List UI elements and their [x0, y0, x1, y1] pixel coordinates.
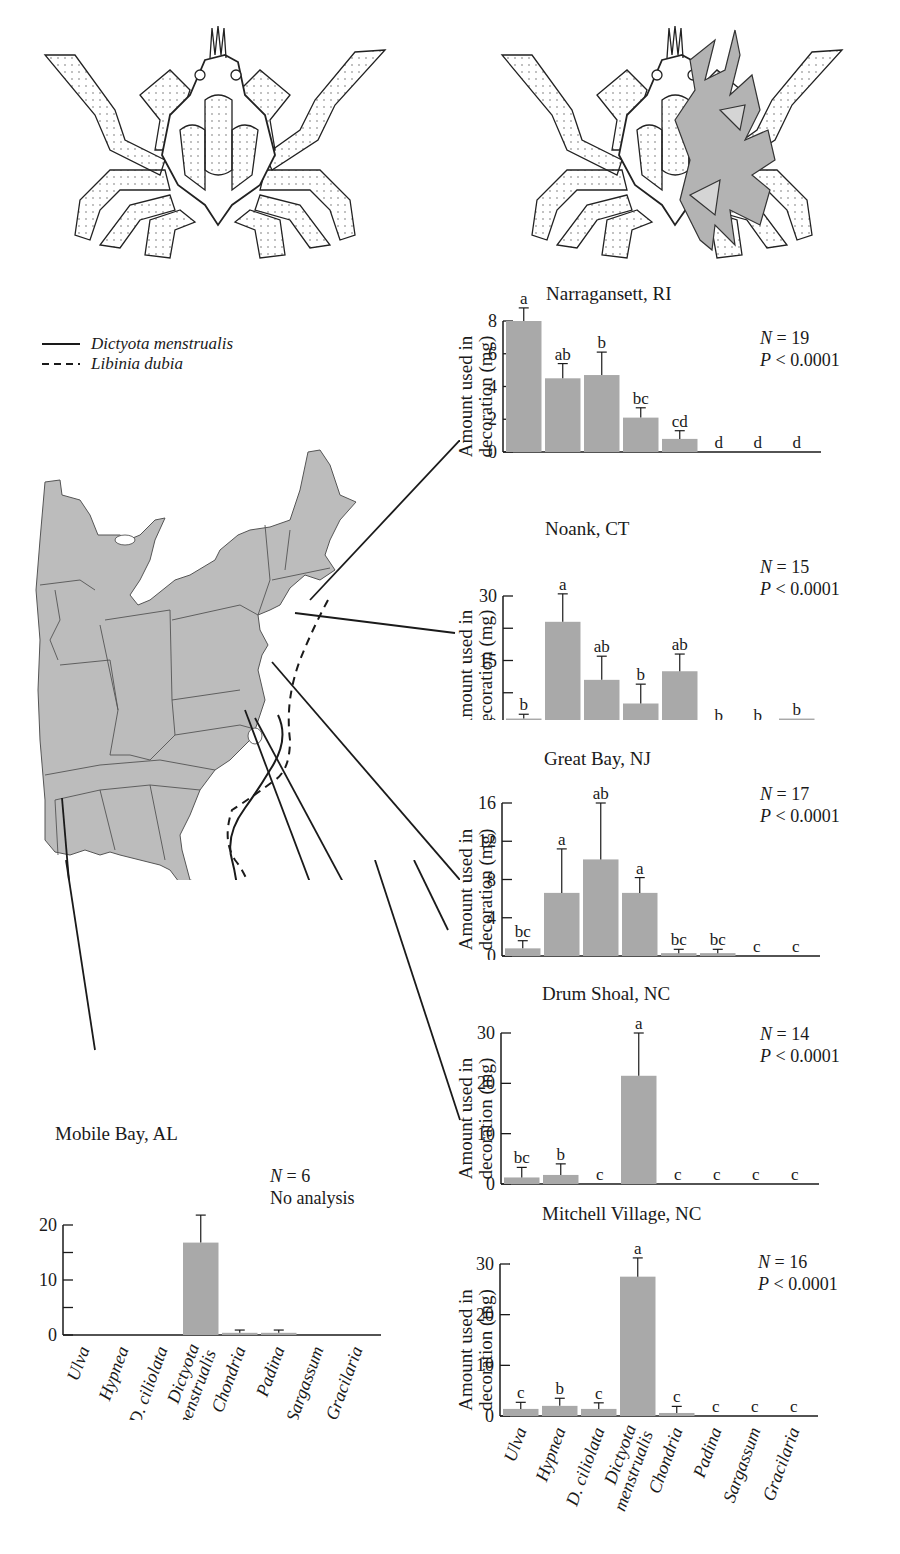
seaweed-decoration [675, 30, 775, 250]
crab-illustrations [0, 0, 900, 270]
chart-mitchell-village: Mitchell Village, NCN = 16P < 0.0001Amou… [450, 1200, 900, 1554]
significance-letter: d [793, 433, 802, 452]
y-tick-label: 10 [477, 1124, 495, 1144]
svg-text:Ulva: Ulva [500, 1425, 531, 1465]
significance-letter: c [752, 1165, 760, 1184]
bar [261, 1333, 297, 1335]
significance-letter: c [596, 1165, 604, 1184]
legend-item-libinia: Libinia dubia [91, 354, 183, 374]
significance-letter: b [520, 695, 529, 714]
crab-undecorated-illustration [45, 26, 385, 258]
svg-text:Sargassum: Sargassum [719, 1425, 765, 1505]
category-label: Gracilaria [758, 1425, 803, 1504]
bar [222, 1333, 258, 1335]
y-tick-label: 10 [476, 1355, 494, 1375]
significance-letter: bc [515, 922, 532, 941]
y-tick-label: 4 [488, 377, 497, 397]
chart-great-bay: Great Bay, NJN = 17P < 0.0001Amount used… [450, 720, 900, 960]
bar [542, 1406, 578, 1416]
bar [662, 439, 698, 452]
svg-text:Padina: Padina [689, 1425, 726, 1482]
significance-letter: d [754, 433, 763, 452]
p-value: P < 0.0001 [759, 350, 840, 370]
svg-text:Gracilaria: Gracilaria [758, 1425, 803, 1504]
bar [659, 1413, 695, 1416]
svg-text:Padina: Padina [252, 1344, 289, 1401]
significance-letter: c [712, 1397, 720, 1416]
bar [503, 1409, 539, 1416]
y-tick-label: 8 [488, 311, 497, 331]
svg-text:Gracilaria: Gracilaria [321, 1344, 366, 1420]
significance-letter: a [635, 1014, 643, 1033]
svg-text:Sargassum: Sargassum [282, 1344, 328, 1420]
y-tick-label: 8 [487, 870, 496, 890]
significance-letter: ab [594, 637, 610, 656]
y-tick-label: 12 [478, 831, 496, 851]
chart-title: Mobile Bay, AL [55, 1123, 178, 1144]
category-label: Padina [689, 1425, 726, 1482]
chart-title: Narragansett, RI [546, 283, 672, 304]
y-tick-label: 30 [479, 586, 497, 606]
bar [584, 375, 620, 452]
category-label: Hypnea [531, 1425, 569, 1485]
svg-text:Amount used in: Amount used in [455, 1289, 476, 1411]
legend-item-dictyota: Dictyota menstrualis [91, 334, 233, 354]
significance-letter: a [636, 859, 644, 878]
chart-title: Drum Shoal, NC [542, 983, 670, 1004]
svg-text:Ulva: Ulva [63, 1344, 94, 1384]
significance-letter: d [715, 433, 724, 452]
bar [662, 671, 698, 720]
p-value: P < 0.0001 [759, 1046, 840, 1066]
svg-text:Amount used in: Amount used in [455, 609, 476, 720]
map [0, 440, 460, 880]
y-tick-label: 30 [477, 1023, 495, 1043]
significance-letter: b [793, 700, 802, 719]
crab-decorated-illustration [502, 26, 842, 258]
sample-size: N = 15 [759, 557, 809, 577]
y-tick-label: 30 [476, 1254, 494, 1274]
chart-title: Great Bay, NJ [544, 748, 651, 769]
y-tick-label: 4 [487, 908, 496, 928]
sample-size: N = 19 [759, 328, 809, 348]
svg-text:D. ciliolata: D. ciliolata [561, 1425, 608, 1510]
chart-mobile-bay: Mobile Bay, ALN = 6No analysis01020UlvaH… [0, 1120, 420, 1420]
significance-letter: ab [555, 345, 571, 364]
svg-text:Amount used in: Amount used in [455, 335, 476, 457]
category-label: Ulva [500, 1425, 531, 1465]
p-value: P < 0.0001 [759, 579, 840, 599]
significance-letter: c [792, 937, 800, 956]
category-label: D. ciliolata [561, 1425, 608, 1510]
bar [505, 948, 541, 956]
y-tick-label: 0 [486, 1174, 495, 1194]
significance-letter: bc [514, 1148, 531, 1167]
sample-size: N = 14 [759, 1024, 809, 1044]
p-value: P < 0.0001 [759, 806, 840, 826]
bar [623, 418, 659, 452]
bar [583, 859, 619, 956]
y-tick-label: 20 [477, 1073, 495, 1093]
bar [506, 321, 542, 452]
svg-text:D. ciliolata: D. ciliolata [124, 1344, 171, 1420]
bar [504, 1177, 540, 1184]
bar [584, 680, 620, 720]
sample-size: N = 6 [269, 1166, 310, 1186]
significance-letter: b [754, 706, 763, 720]
bar [620, 1277, 656, 1416]
y-tick-label: 20 [39, 1215, 57, 1235]
significance-letter: c [751, 1397, 759, 1416]
bar [623, 704, 659, 721]
bar [581, 1409, 617, 1416]
category-label: Hypnea [94, 1344, 132, 1404]
svg-text:Amount used in: Amount used in [455, 828, 476, 950]
y-tick-label: 2 [488, 409, 497, 429]
bar [544, 893, 580, 956]
bar [543, 1175, 579, 1184]
y-tick-label: 0 [485, 1406, 494, 1426]
significance-letter: b [557, 1145, 566, 1164]
significance-letter: b [715, 706, 724, 720]
significance-letter: ab [672, 635, 688, 654]
svg-text:Hypnea: Hypnea [94, 1344, 132, 1404]
significance-letter: cd [672, 412, 689, 431]
significance-letter: c [673, 1387, 681, 1406]
significance-letter: a [559, 575, 567, 594]
